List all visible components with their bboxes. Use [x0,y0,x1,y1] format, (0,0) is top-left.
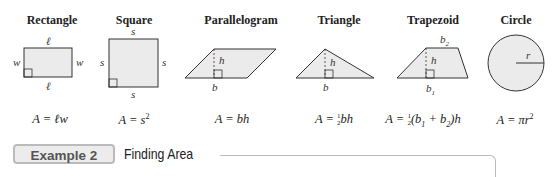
formula-square-exponent: 2 [145,112,149,121]
formula-rectangle-text: A = ℓw [32,112,68,126]
svg-text:r: r [526,49,531,61]
formula-circle-text: A = πr [496,113,529,127]
formula-parallelogram-text: A = bh [215,112,250,126]
formula-part: (b [411,112,421,126]
formula-parallelogram: A = bh [177,112,287,127]
square-figure: s s s s [100,25,166,100]
svg-text:b1: b1 [426,82,435,97]
formula-circle-exponent: 2 [530,112,534,121]
formula-trapezoid-lhs: A = [385,112,407,126]
svg-text:b: b [212,81,218,93]
svg-text:b: b [323,81,329,93]
formula-part: + b [425,112,446,126]
parallelogram-figure: h b [185,49,276,93]
triangle-figure: h b [296,49,374,93]
trapezoid-figure: b2 h b1 [397,33,468,97]
example-rule-line [220,155,496,177]
svg-text:h: h [330,56,336,68]
svg-text:s: s [162,56,166,68]
formula-triangle-lhs: A = [315,112,337,126]
formula-square: A = s2 [79,112,189,128]
svg-text:ℓ: ℓ [46,35,51,47]
svg-text:h: h [431,54,437,66]
svg-text:ℓ: ℓ [46,80,51,92]
formula-triangle-rhs: bh [341,112,354,126]
svg-text:s: s [100,56,104,68]
formula-square-text: A = s [119,113,146,127]
example-badge: Example 2 [13,144,115,164]
svg-text:w: w [76,56,84,68]
svg-text:b2: b2 [440,33,450,48]
circle-figure: r [488,35,544,91]
example-title: Finding Area [124,144,193,164]
formula-circle: A = πr2 [460,112,558,128]
shape-figures: ℓ w w ℓ s s s s h b h b b2 h b1 [0,0,558,110]
svg-text:w: w [13,56,21,68]
svg-text:s: s [131,88,135,100]
svg-text:s: s [131,25,135,37]
svg-text:h: h [219,54,225,66]
rectangle-figure: ℓ w w ℓ [13,35,84,92]
